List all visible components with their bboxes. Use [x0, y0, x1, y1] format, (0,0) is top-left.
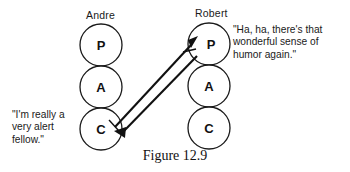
ego-state-letter-robert-child: C	[204, 121, 214, 136]
transaction-arrow-stimulus	[115, 36, 198, 127]
figure-container: P A C P A C Andre Robert	[0, 0, 350, 172]
speech-text-robert: "Ha, ha, there's that wonderful sense of…	[233, 24, 349, 61]
ego-state-letter-andre-adult: A	[96, 80, 106, 95]
person-name-andre: Andre	[86, 9, 115, 21]
ego-state-letter-andre-parent: P	[97, 38, 106, 53]
figure-caption: Figure 12.9	[0, 148, 350, 164]
ego-state-letter-robert-parent: P	[207, 37, 216, 52]
ego-state-letter-andre-child: C	[96, 122, 106, 137]
person-name-robert: Robert	[195, 7, 228, 19]
speech-text-andre: "I'm really a very alert fellow."	[12, 109, 96, 146]
ego-state-letter-robert-adult: A	[204, 79, 214, 94]
